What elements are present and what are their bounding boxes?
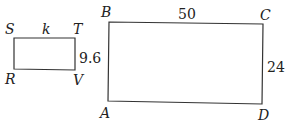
small-rectangle-srtv: S k T 9.6 R V bbox=[4, 21, 101, 88]
side-label-50: 50 bbox=[178, 6, 196, 22]
vertex-label-s: S bbox=[5, 21, 15, 37]
similar-rectangles-diagram: S k T 9.6 R V B 50 C 24 A D bbox=[0, 0, 287, 126]
vertex-label-t: T bbox=[73, 21, 84, 37]
vertex-label-c: C bbox=[260, 7, 271, 23]
vertex-label-d: D bbox=[257, 107, 269, 123]
large-rectangle-outline bbox=[108, 22, 263, 104]
vertex-label-r: R bbox=[4, 71, 16, 87]
vertex-label-a: A bbox=[98, 105, 110, 121]
large-rectangle-bcda: B 50 C 24 A D bbox=[98, 4, 285, 123]
side-label-24: 24 bbox=[267, 59, 285, 75]
side-label-9-6: 9.6 bbox=[79, 50, 101, 66]
vertex-label-b: B bbox=[100, 4, 111, 20]
small-rectangle-outline bbox=[14, 38, 75, 70]
vertex-label-v: V bbox=[73, 72, 85, 88]
side-label-k: k bbox=[42, 21, 50, 37]
